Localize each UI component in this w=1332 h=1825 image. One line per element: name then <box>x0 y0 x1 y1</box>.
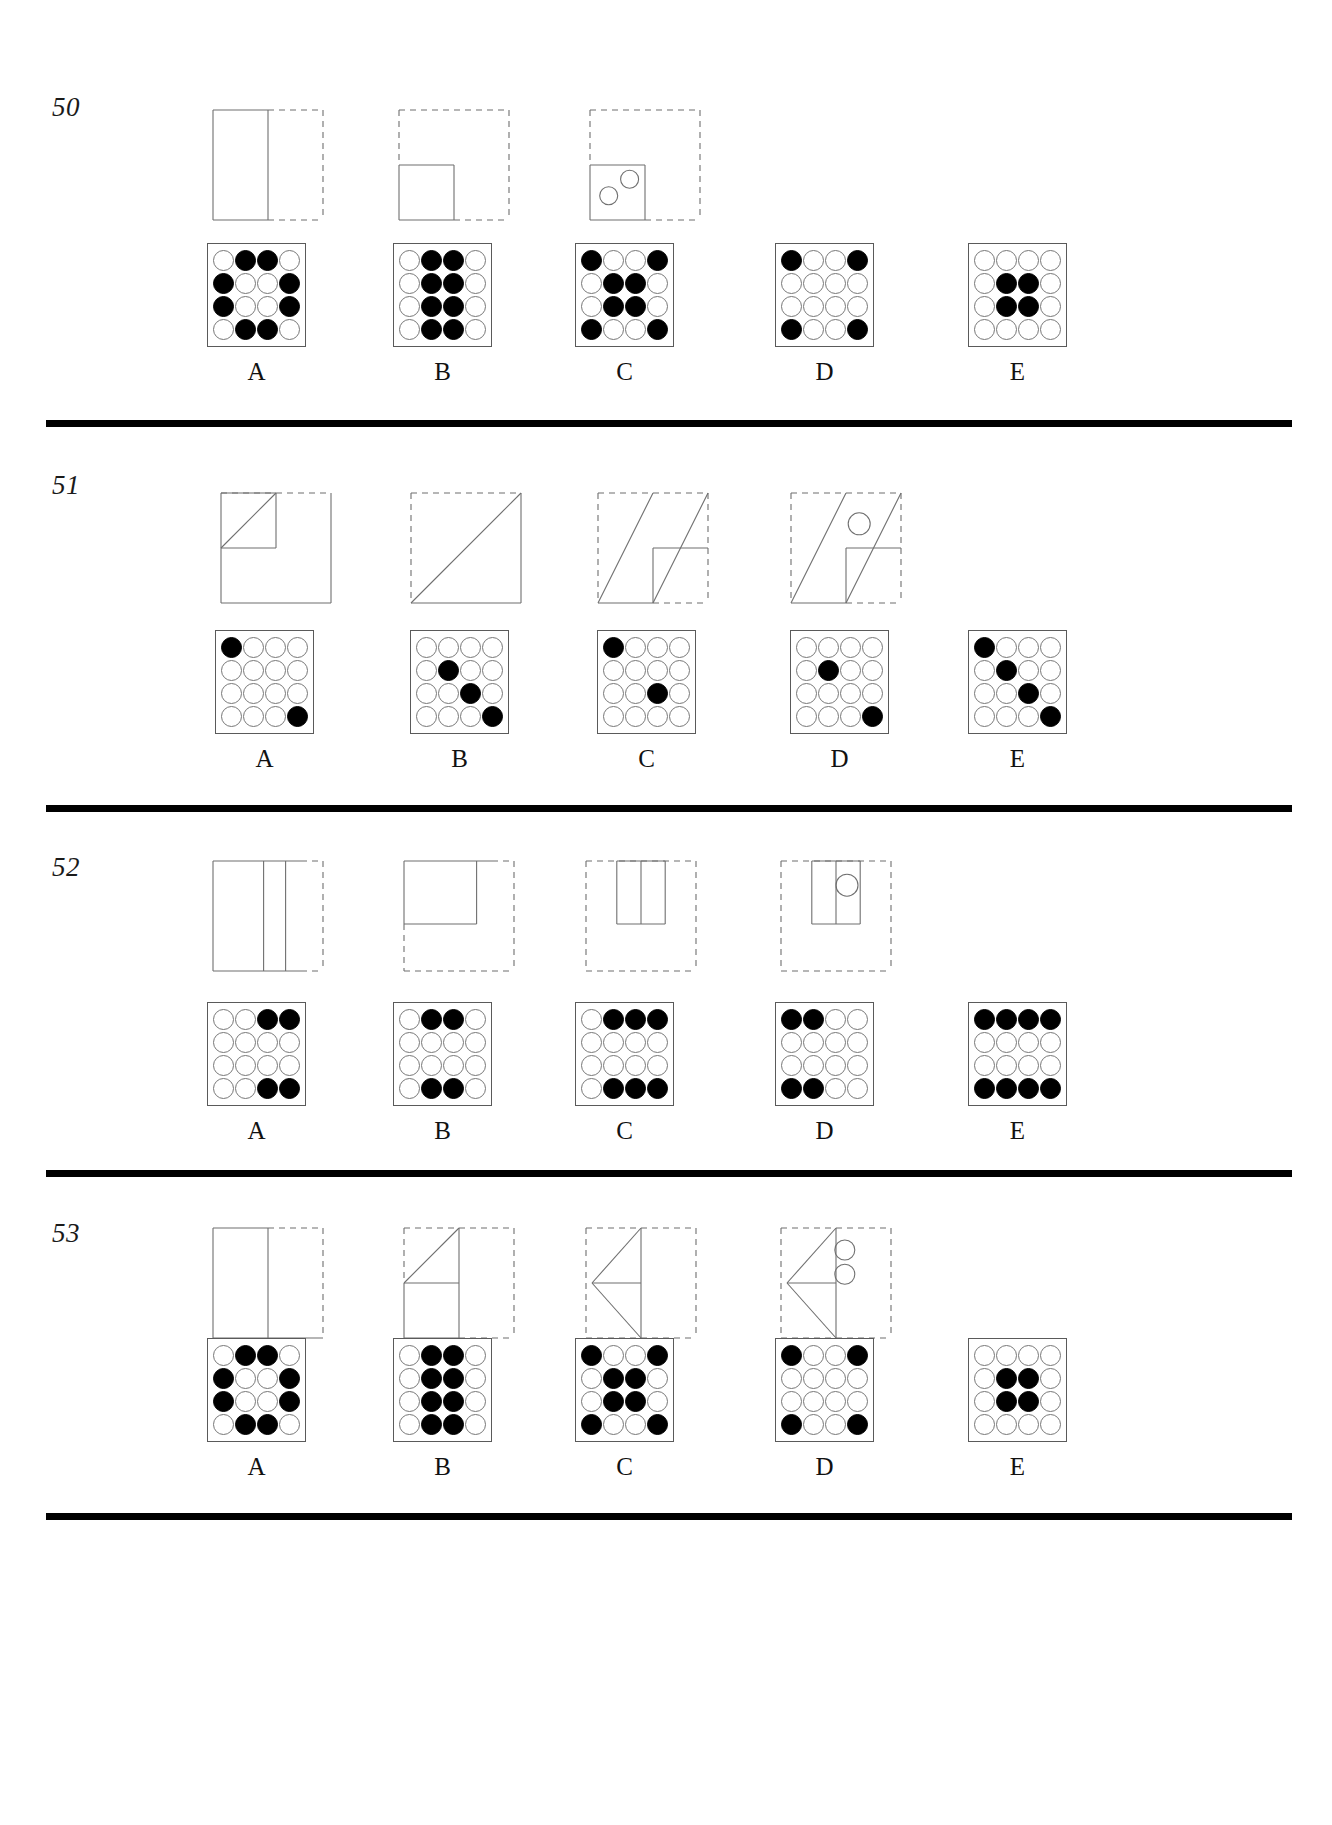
dot-open <box>257 1391 278 1412</box>
dot-open <box>257 1055 278 1076</box>
dot-open <box>803 1391 824 1412</box>
dot-open <box>213 1055 234 1076</box>
answer-option-d[interactable]: D <box>775 1002 874 1145</box>
answer-option-a[interactable]: A <box>207 1002 306 1145</box>
dot-open <box>465 319 486 340</box>
answer-option-c[interactable]: C <box>597 630 696 773</box>
dot-filled <box>221 637 242 658</box>
dot-grid[interactable] <box>597 630 696 734</box>
dot-grid[interactable] <box>207 1002 306 1106</box>
option-label: D <box>830 745 848 773</box>
dot-grid[interactable] <box>410 630 509 734</box>
answer-option-e[interactable]: E <box>968 243 1067 386</box>
answer-option-d[interactable]: D <box>775 243 874 386</box>
dot-open <box>265 683 286 704</box>
dot-open <box>1040 319 1061 340</box>
dot-filled <box>996 1391 1017 1412</box>
dot-open <box>1018 319 1039 340</box>
dot-open <box>399 1078 420 1099</box>
answer-option-e[interactable]: E <box>968 1338 1067 1481</box>
dot-filled <box>443 1414 464 1435</box>
dot-grid[interactable] <box>790 630 889 734</box>
dot-open <box>1018 1345 1039 1366</box>
dot-open <box>399 1345 420 1366</box>
answer-option-b[interactable]: B <box>393 1002 492 1145</box>
dot-filled <box>847 250 868 271</box>
answer-option-d[interactable]: D <box>775 1338 874 1481</box>
dot-filled <box>1018 1368 1039 1389</box>
dot-open <box>996 319 1017 340</box>
dot-open <box>287 637 308 658</box>
dot-open <box>399 273 420 294</box>
answer-option-c[interactable]: C <box>575 1338 674 1481</box>
dot-open <box>221 706 242 727</box>
option-label: C <box>616 1453 633 1481</box>
dot-grid[interactable] <box>393 243 492 347</box>
dot-filled <box>421 273 442 294</box>
dot-grid[interactable] <box>575 1002 674 1106</box>
dot-grid[interactable] <box>968 1002 1067 1106</box>
dot-open <box>647 1055 668 1076</box>
dot-filled <box>257 1345 278 1366</box>
dot-open <box>416 660 437 681</box>
dot-open <box>1018 250 1039 271</box>
dot-grid[interactable] <box>775 243 874 347</box>
dot-grid[interactable] <box>775 1338 874 1442</box>
answer-option-d[interactable]: D <box>790 630 889 773</box>
dot-grid[interactable] <box>215 630 314 734</box>
dot-grid[interactable] <box>393 1338 492 1442</box>
answer-option-b[interactable]: B <box>393 1338 492 1481</box>
dot-open <box>399 1032 420 1053</box>
dot-grid[interactable] <box>968 243 1067 347</box>
dot-open <box>221 683 242 704</box>
dot-open <box>625 1414 646 1435</box>
dot-open <box>1040 296 1061 317</box>
answer-option-b[interactable]: B <box>410 630 509 773</box>
section-divider <box>46 1170 1292 1177</box>
dot-grid[interactable] <box>393 1002 492 1106</box>
dot-open <box>625 319 646 340</box>
dot-filled <box>421 1368 442 1389</box>
dot-grid[interactable] <box>575 1338 674 1442</box>
dot-open <box>581 1009 602 1030</box>
dot-grid[interactable] <box>207 1338 306 1442</box>
dot-grid[interactable] <box>968 1338 1067 1442</box>
dot-open <box>465 273 486 294</box>
dot-grid[interactable] <box>575 243 674 347</box>
dot-open <box>825 1032 846 1053</box>
option-label: B <box>451 745 468 773</box>
dot-open <box>825 1414 846 1435</box>
dot-filled <box>443 1368 464 1389</box>
dot-open <box>974 296 995 317</box>
answer-option-a[interactable]: A <box>207 1338 306 1481</box>
answer-option-e[interactable]: E <box>968 1002 1067 1145</box>
dot-open <box>781 1032 802 1053</box>
answer-option-c[interactable]: C <box>575 243 674 386</box>
dot-open <box>221 660 242 681</box>
dot-filled <box>443 1345 464 1366</box>
dot-filled <box>213 296 234 317</box>
dot-open <box>974 273 995 294</box>
dot-filled <box>235 319 256 340</box>
stimulus-figure-3 <box>580 855 702 977</box>
dot-filled <box>781 1414 802 1435</box>
answer-option-c[interactable]: C <box>575 1002 674 1145</box>
dot-open <box>213 319 234 340</box>
dot-grid[interactable] <box>207 243 306 347</box>
answer-option-b[interactable]: B <box>393 243 492 386</box>
dot-filled <box>421 296 442 317</box>
stimulus-figure-1 <box>207 1222 329 1344</box>
answer-option-a[interactable]: A <box>207 243 306 386</box>
answer-option-a[interactable]: A <box>215 630 314 773</box>
dot-open <box>996 706 1017 727</box>
answer-option-e[interactable]: E <box>968 630 1067 773</box>
dot-open <box>1040 1032 1061 1053</box>
dot-open <box>862 683 883 704</box>
dot-grid[interactable] <box>968 630 1067 734</box>
dot-filled <box>421 250 442 271</box>
dot-grid[interactable] <box>775 1002 874 1106</box>
dot-open <box>974 1414 995 1435</box>
dot-open <box>421 1032 442 1053</box>
dot-open <box>847 1032 868 1053</box>
dot-open <box>213 1009 234 1030</box>
